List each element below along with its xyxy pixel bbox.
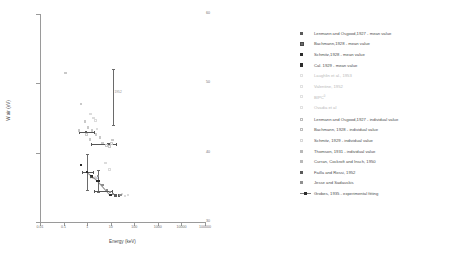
tick-faint-marker-icon — [300, 95, 303, 98]
error-bar-cap — [91, 143, 92, 146]
data-point — [101, 142, 104, 145]
legend-label: Schmitz, 1929 - individual value — [314, 138, 373, 143]
legend-label: Cal. 1929 - mean value — [314, 63, 357, 68]
data-point — [91, 129, 94, 132]
data-point — [119, 194, 121, 196]
x-axis-title: Energy (keV) — [40, 239, 205, 244]
y-tick-label: 40 — [176, 151, 210, 155]
legend-marker — [300, 53, 314, 56]
legend-label: Thomson, 1931 - individual value — [314, 149, 375, 154]
legend-marker — [300, 128, 314, 131]
legend-marker — [300, 139, 314, 142]
legend-item[interactable]: Laughlin et al., 1953 — [300, 70, 391, 81]
error-bar-cap — [97, 170, 100, 171]
mid-square-marker-icon — [300, 150, 303, 153]
data-point — [127, 194, 129, 196]
legend-item[interactable]: Bachmann, 1928 - individual value — [300, 125, 398, 136]
plot-area: 60504030 0.010.1110100100010000100000 Fa… — [0, 0, 210, 259]
data-point — [106, 189, 108, 191]
legend-item[interactable]: Grobes, 1935 - experimental fitting — [300, 188, 398, 199]
data-point — [78, 129, 81, 132]
large-filled-square-marker-icon — [300, 42, 304, 46]
data-point — [110, 142, 113, 145]
error-bar-cap — [86, 190, 89, 191]
legend-marker — [300, 106, 314, 109]
data-point — [94, 119, 97, 122]
legend-superscript: 0 — [324, 94, 326, 98]
legend-marker — [300, 95, 314, 98]
legend-marker — [300, 118, 314, 121]
open-square-faint-marker-icon — [300, 74, 303, 77]
error-bar-cap — [112, 125, 115, 126]
legend-label: Curran, Cockroft and Insch, 1950 — [314, 159, 376, 164]
legend-item[interactable]: Schmitz,1928 - mean value — [300, 49, 391, 60]
open-square-marker-icon — [300, 128, 303, 131]
legend-item[interactable]: Lenmann and Osgood,1927 - individual val… — [300, 114, 398, 125]
legend-label: Grobes, 1935 - experimental fitting — [314, 191, 378, 196]
legend-marker — [300, 171, 314, 174]
legend-marker — [300, 74, 314, 77]
legend-label: Valentine, 1952 — [314, 84, 343, 89]
legend-marker — [300, 63, 314, 66]
data-point — [85, 133, 88, 136]
error-bar-cap — [112, 69, 115, 70]
legend-item[interactable]: Lenmann and Osgood,1927 - mean value — [300, 28, 391, 39]
filled-square-marker-icon — [300, 32, 303, 35]
y-tick-label: 50 — [176, 81, 210, 85]
legend-label: Bachmann, 1928 - individual value — [314, 127, 378, 132]
filled-square-marker-icon — [300, 171, 303, 174]
y-tick — [36, 153, 40, 154]
legend-item[interactable]: Cal. 1929 - mean value — [300, 60, 391, 71]
data-point — [92, 117, 95, 120]
data-point — [86, 171, 89, 174]
data-point — [80, 103, 83, 106]
legend-item[interactable]: Thomson, 1931 - individual value — [300, 146, 398, 157]
y-tick — [36, 83, 40, 84]
legend-label: Lenmann and Osgood,1927 - mean value — [314, 31, 391, 36]
legend-marker — [300, 42, 314, 46]
data-point — [87, 126, 90, 129]
error-bar-cap — [116, 143, 117, 146]
legend-mean-values: Lenmann and Osgood,1927 - mean valueBach… — [300, 28, 391, 113]
legend-item[interactable]: Schmitz, 1929 - individual value — [300, 135, 398, 146]
legend-label: Ovadia et al — [314, 105, 336, 110]
legend-item[interactable]: Bachmann,1928 - mean value — [300, 39, 391, 50]
mid-square-marker-icon — [300, 160, 303, 163]
legend-marker — [300, 160, 314, 163]
y-axis-line — [40, 14, 41, 223]
data-point — [111, 139, 114, 142]
legend-label: Failla and Rossi, 1952 — [314, 170, 355, 175]
legend-item[interactable]: Valentine, 1952 — [300, 81, 391, 92]
data-point — [84, 120, 87, 123]
data-point — [114, 194, 116, 196]
legend-item[interactable]: Jesse and Sadauskis — [300, 178, 398, 189]
data-point — [99, 136, 102, 139]
data-point — [108, 168, 111, 171]
error-bar-cap — [93, 171, 94, 174]
error-bar-cap — [82, 171, 83, 174]
data-point — [105, 144, 108, 147]
chart-figure: 60504030 0.010.1110100100010000100000 Fa… — [0, 0, 452, 259]
legend-marker — [300, 32, 314, 35]
data-point — [109, 194, 112, 197]
data-point — [64, 72, 67, 75]
legend-label: BIPC0 — [314, 94, 325, 100]
legend-item[interactable]: Ovadia et al — [300, 102, 391, 113]
legend-item[interactable]: BIPC0 — [300, 92, 391, 103]
legend-marker — [300, 193, 314, 194]
data-point — [101, 184, 103, 186]
legend-item[interactable]: Curran, Cockroft and Insch, 1950 — [300, 156, 398, 167]
legend-label: Laughlin et al., 1953 — [314, 73, 352, 78]
legend-marker — [300, 150, 314, 153]
legend-marker — [300, 181, 314, 184]
y-tick — [36, 14, 40, 15]
data-point — [124, 195, 126, 197]
legend-label: Schmitz,1928 - mean value — [314, 52, 365, 57]
plot-annotation: 1952 — [115, 90, 122, 94]
dot-faint-marker-icon — [300, 85, 303, 88]
cross-marker-icon — [300, 181, 303, 184]
y-tick-label: 60 — [176, 12, 210, 16]
legend-item[interactable]: Failla and Rossi, 1952 — [300, 167, 398, 178]
cross-faint-marker-icon — [300, 106, 303, 109]
plot-annotation: Failla — [90, 176, 98, 180]
